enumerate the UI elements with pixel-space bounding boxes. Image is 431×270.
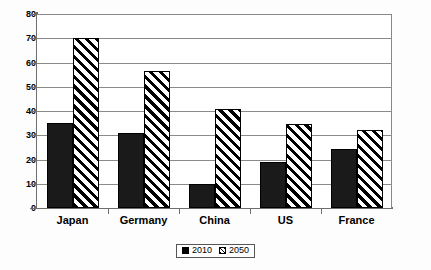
category-label-japan: Japan bbox=[37, 214, 108, 226]
bar-2010-us[interactable] bbox=[260, 162, 286, 208]
category-label-china: China bbox=[179, 214, 250, 226]
bar-chart: 80 70 60 50 40 30 20 10 0 bbox=[0, 0, 431, 270]
category-label-france: France bbox=[321, 214, 392, 226]
bar-2010-china[interactable] bbox=[189, 184, 215, 208]
legend-label-2050: 2050 bbox=[229, 246, 249, 255]
legend-item-2010[interactable]: 2010 bbox=[182, 246, 212, 255]
plot-area bbox=[37, 14, 392, 208]
bar-2010-france[interactable] bbox=[331, 149, 357, 208]
bar-2050-germany[interactable] bbox=[144, 71, 170, 208]
solid-black-square-icon bbox=[182, 247, 189, 254]
bar-group-china bbox=[189, 14, 241, 208]
bar-2010-japan[interactable] bbox=[47, 123, 73, 208]
bar-2010-germany[interactable] bbox=[118, 133, 144, 208]
bar-group-us bbox=[260, 14, 312, 208]
bar-2050-france[interactable] bbox=[357, 130, 383, 208]
bar-2050-us[interactable] bbox=[286, 124, 312, 208]
bar-group-japan bbox=[47, 14, 99, 208]
bar-2050-china[interactable] bbox=[215, 109, 241, 208]
bar-groups bbox=[37, 14, 392, 208]
x-axis-labels: Japan Germany China US France bbox=[37, 214, 392, 226]
legend-label-2010: 2010 bbox=[192, 246, 212, 255]
legend-item-2050[interactable]: 2050 bbox=[219, 246, 249, 255]
category-label-germany: Germany bbox=[108, 214, 179, 226]
bar-2050-japan[interactable] bbox=[73, 38, 99, 208]
category-label-us: US bbox=[250, 214, 321, 226]
hatched-square-icon bbox=[219, 247, 226, 254]
legend-box: 2010 2050 bbox=[176, 244, 255, 258]
bar-group-germany bbox=[118, 14, 170, 208]
legend: 2010 2050 bbox=[0, 244, 431, 258]
bar-group-france bbox=[331, 14, 383, 208]
